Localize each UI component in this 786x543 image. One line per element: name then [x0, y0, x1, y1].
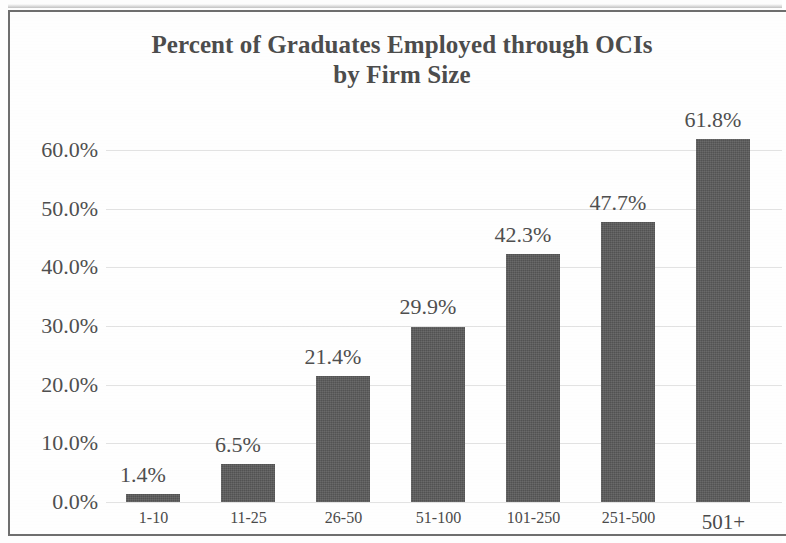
x-axis: 1-1011-2526-5051-100101-250251-500501+	[106, 508, 782, 543]
bar-group: 6.5%	[201, 132, 296, 502]
y-axis-tick-label: 10.0%	[12, 432, 98, 454]
x-axis-tick-label: 26-50	[296, 508, 391, 528]
bar-group: 1.4%	[106, 132, 201, 502]
chart-title-line-2: by Firm Size	[22, 60, 782, 90]
x-axis-tick-label: 501+	[676, 512, 771, 532]
bar	[126, 494, 180, 502]
x-axis-tick-label: 101-250	[486, 508, 581, 528]
bar-group: 42.3%	[486, 132, 581, 502]
bar	[601, 222, 655, 502]
bar-value-label: 42.3%	[476, 224, 570, 246]
bar-value-label: 21.4%	[286, 346, 380, 368]
x-axis-tick-label: 11-25	[201, 508, 296, 528]
x-axis-tick-label: 251-500	[581, 508, 676, 528]
bar	[696, 139, 750, 502]
bar	[411, 327, 465, 503]
gridline	[106, 502, 782, 503]
plot-area: 1.4%6.5%21.4%29.9%42.3%47.7%61.8%	[106, 132, 782, 502]
bar-group: 29.9%	[391, 132, 486, 502]
bar-value-label: 29.9%	[381, 296, 475, 318]
y-axis-tick-label: 40.0%	[12, 256, 98, 278]
bar-value-label: 47.7%	[571, 192, 665, 214]
y-axis-tick-label: 0.0%	[12, 491, 98, 513]
y-axis-tick-label: 30.0%	[12, 315, 98, 337]
chart-title-line-1: Percent of Graduates Employed through OC…	[22, 30, 782, 60]
bar-group: 61.8%	[676, 132, 771, 502]
x-axis-tick-label: 51-100	[391, 508, 486, 528]
chart-frame: Percent of Graduates Employed through OC…	[8, 10, 786, 536]
y-axis-tick-label: 50.0%	[12, 198, 98, 220]
x-axis-tick-label: 1-10	[106, 508, 201, 528]
page-edge-shadow	[8, 4, 782, 8]
bar-value-label: 61.8%	[666, 109, 760, 131]
bar-value-label: 1.4%	[96, 464, 190, 486]
bar	[506, 254, 560, 502]
bar	[221, 464, 275, 502]
y-axis-tick-label: 20.0%	[12, 374, 98, 396]
bar	[316, 376, 370, 502]
chart-title: Percent of Graduates Employed through OC…	[22, 30, 782, 90]
y-axis-tick-label: 60.0%	[12, 139, 98, 161]
bar-group: 47.7%	[581, 132, 676, 502]
y-axis: 0.0%10.0%20.0%30.0%40.0%50.0%60.0%	[10, 132, 98, 502]
bar-group: 21.4%	[296, 132, 391, 502]
bar-value-label: 6.5%	[191, 434, 285, 456]
